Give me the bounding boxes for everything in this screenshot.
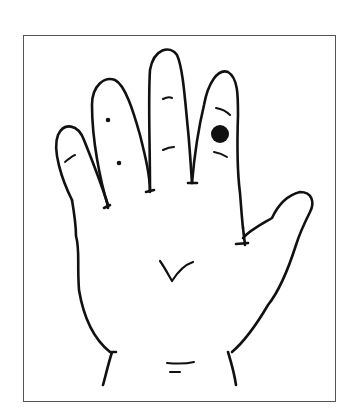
index-finger-outline xyxy=(192,71,243,228)
dot xyxy=(107,119,109,121)
dot xyxy=(118,162,120,164)
palm-left-edge xyxy=(72,200,116,385)
thumb-outline xyxy=(228,192,312,385)
marker-dot xyxy=(211,125,229,143)
wrist-line xyxy=(167,362,194,364)
crease xyxy=(163,147,174,150)
crease xyxy=(216,108,230,115)
crease xyxy=(163,97,172,99)
crease xyxy=(214,152,227,157)
palm-v-mark xyxy=(160,261,193,281)
little-finger-outline xyxy=(56,126,108,205)
hand-illustration xyxy=(0,0,357,415)
crease xyxy=(65,155,75,162)
middle-finger-outline xyxy=(149,50,192,190)
